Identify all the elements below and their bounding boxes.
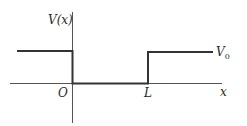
potential-curve [17,51,213,84]
barrier-height-label: V0 [216,46,230,61]
y-axis-label: V(x) [48,14,73,26]
origin-label: O [58,87,68,99]
x-axis-label: x [220,86,227,98]
well-edge-label: L [144,87,152,99]
diagram-lines [0,0,247,126]
potential-well-diagram: V(x) O L x V0 [0,0,247,126]
